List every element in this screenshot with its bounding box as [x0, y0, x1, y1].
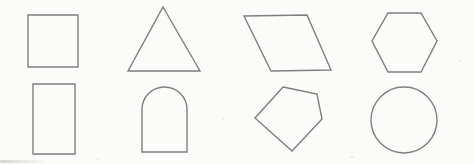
shape-hexagon: [372, 13, 437, 72]
scan-smudge: [0, 160, 48, 163]
shape-square: [28, 15, 78, 67]
shape-triangle: [128, 7, 200, 71]
paper-speckle: [96, 158, 99, 160]
shape-pentagon: [255, 87, 322, 151]
paper-speckle: [350, 156, 354, 158]
shape-arch: [142, 87, 187, 152]
paper-speckle: [222, 118, 225, 120]
shapes-sheet: [0, 0, 474, 164]
paper-speckle: [458, 60, 461, 62]
shape-parallelogram: [244, 15, 331, 71]
shape-rectangle: [33, 84, 75, 154]
shape-circle: [371, 87, 437, 153]
shapes-figure: [0, 0, 474, 164]
